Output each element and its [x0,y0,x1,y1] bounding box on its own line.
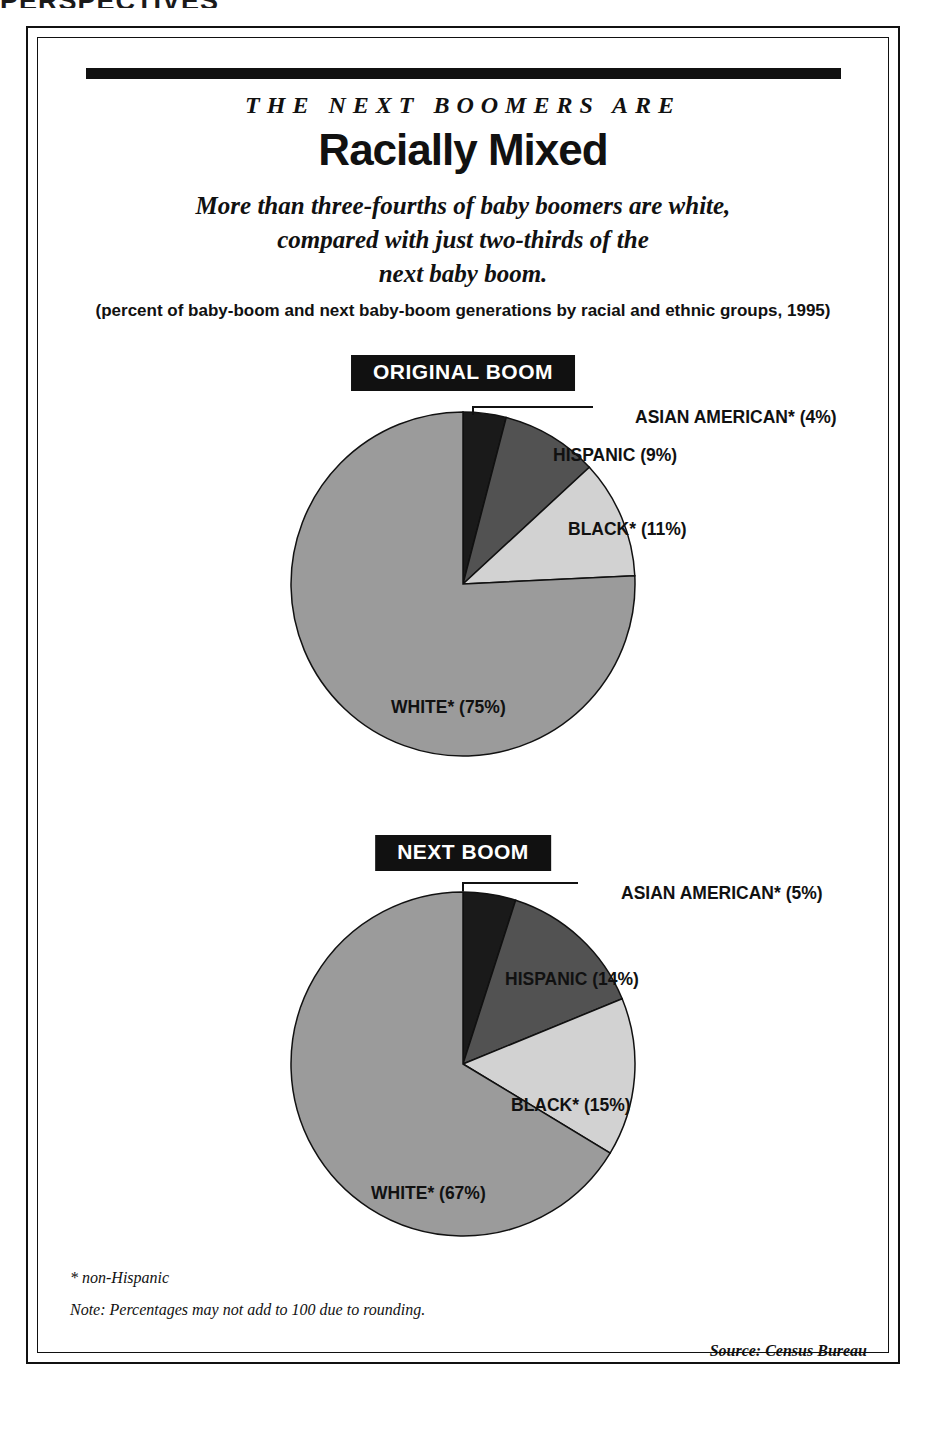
footnote-non-hispanic: * non-Hispanic [70,1269,169,1287]
chart-original-boom: ORIGINAL BOOM ASIAN AMERICAN* (4%) HISPA… [37,355,889,775]
pie-label-black-original: BLACK* (11%) [568,519,687,540]
pie-label-white-original: WHITE* (75%) [391,697,506,718]
pie-label-asian-original: ASIAN AMERICAN* (4%) [635,407,837,428]
chart-next-boom: NEXT BOOM ASIAN AMERICAN* (5%) HISPANIC … [37,835,889,1255]
pie-area-original: ASIAN AMERICAN* (4%) HISPANIC (9%) BLACK… [37,397,889,772]
source-credit: Source: Census Bureau [710,1342,867,1360]
deck-line-3: next baby boom. [37,257,889,291]
infographic-content: THE NEXT BOOMERS ARE Racially Mixed More… [37,37,889,1353]
footnote-rounding: Note: Percentages may not add to 100 due… [70,1301,425,1319]
chart-subcaption: (percent of baby-boom and next baby-boom… [37,301,889,321]
chart-title-banner-original: ORIGINAL BOOM [351,355,575,391]
pie-label-black-next: BLACK* (15%) [511,1095,631,1116]
pie-label-asian-next: ASIAN AMERICAN* (5%) [621,883,823,904]
chart-title-banner-next: NEXT BOOM [375,835,551,871]
pie-label-hispanic-original: HISPANIC (9%) [553,445,677,466]
deck-text: More than three-fourths of baby boomers … [37,189,889,291]
kicker-text: THE NEXT BOOMERS ARE [37,92,889,119]
pie-label-hispanic-next: HISPANIC (14%) [505,969,639,990]
page-title: Racially Mixed [37,125,889,175]
pie-area-next: ASIAN AMERICAN* (5%) HISPANIC (14%) BLAC… [37,877,889,1252]
pie-label-white-next: WHITE* (67%) [371,1183,486,1204]
top-rule-bar [86,68,841,79]
running-head: PERSPECTIVES [0,0,340,8]
leader-line-asian-next [463,883,578,891]
deck-line-1: More than three-fourths of baby boomers … [37,189,889,223]
deck-line-2: compared with just two-thirds of the [37,223,889,257]
